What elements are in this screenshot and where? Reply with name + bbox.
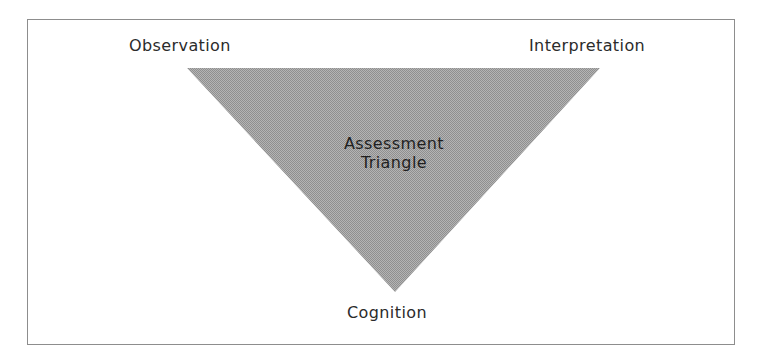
center-label-assessment-triangle: Assessment Triangle: [319, 134, 469, 172]
figure-frame-border: [27, 19, 735, 345]
center-label-line-1: Assessment: [319, 134, 469, 153]
center-label-line-2: Triangle: [319, 153, 469, 172]
vertex-label-interpretation: Interpretation: [529, 36, 645, 55]
figure-canvas: Observation Interpretation Assessment Tr…: [0, 0, 758, 364]
vertex-label-observation: Observation: [129, 36, 231, 55]
vertex-label-cognition: Cognition: [347, 303, 427, 322]
